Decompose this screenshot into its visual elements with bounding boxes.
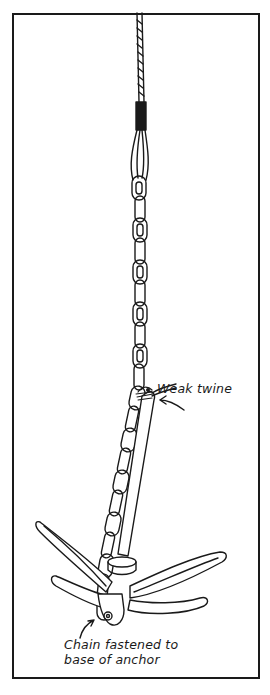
rope-icon (131, 13, 148, 180)
weak-twine-label: Weak twine (157, 381, 232, 396)
chain-fastened-label-line1: Chain fastened to (64, 637, 178, 652)
chain-base-pointer-icon (80, 620, 94, 638)
chain-fastened-label: Chain fastened to base of anchor (64, 637, 178, 667)
chain-fastened-label-line2: base of anchor (64, 652, 178, 667)
weak-twine-pointer-icon (160, 396, 184, 410)
anchor-illustration (0, 0, 270, 695)
anchor-icon (36, 391, 226, 625)
